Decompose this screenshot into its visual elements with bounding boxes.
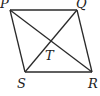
vertex-label-s: S — [17, 76, 26, 91]
intersection-label-t: T — [45, 48, 55, 63]
vertex-label-p: P — [0, 0, 9, 11]
vertex-label-q: Q — [76, 0, 87, 11]
vertex-label-r: R — [87, 76, 98, 91]
geometry-diagram: P Q R S T — [0, 0, 100, 96]
